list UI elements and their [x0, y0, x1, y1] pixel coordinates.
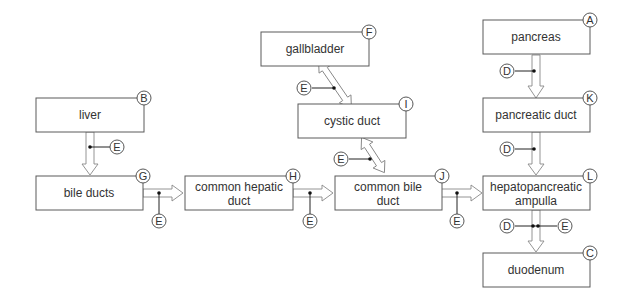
- control-badge-e: E: [152, 214, 166, 228]
- svg-text:duct: duct: [377, 194, 400, 208]
- node-pancreatic-duct: pancreatic duct K: [483, 91, 597, 132]
- svg-text:pancreas: pancreas: [511, 30, 560, 44]
- svg-text:E: E: [561, 220, 568, 232]
- node-badge-c: C: [583, 246, 597, 260]
- flow-diagram: E E E E E E: [0, 0, 632, 288]
- node-duodenum: duodenum C: [483, 246, 597, 287]
- svg-text:J: J: [439, 170, 445, 182]
- svg-text:common bile: common bile: [354, 180, 422, 194]
- svg-text:E: E: [300, 82, 307, 94]
- svg-text:ampulla: ampulla: [515, 194, 557, 208]
- svg-text:D: D: [503, 65, 511, 77]
- control-badge-e: E: [558, 219, 572, 233]
- node-badge-g: G: [136, 169, 150, 183]
- node-badge-i: I: [399, 97, 413, 111]
- node-hepatopancreatic-ampulla: hepatopancreatic ampulla L: [483, 169, 597, 210]
- control-badge-d: D: [500, 219, 514, 233]
- arrow-bile-ducts-to-common-hepatic-duct: [143, 185, 183, 201]
- arrow-pancreatic-duct-to-hepatopancreatic-ampulla: [528, 132, 544, 175]
- node-badge-a: A: [583, 13, 597, 27]
- node-badge-j: J: [435, 169, 449, 183]
- node-gallbladder: gallbladder F: [261, 25, 376, 66]
- arrow-liver-to-bile-ducts: [82, 132, 98, 175]
- arrow-cystic-duct-common-bile-duct: [356, 134, 391, 177]
- node-common-bile-duct: common bile duct J: [335, 169, 449, 210]
- svg-text:E: E: [155, 215, 162, 227]
- svg-text:common hepatic: common hepatic: [195, 180, 283, 194]
- svg-text:A: A: [586, 14, 594, 26]
- svg-text:gallbladder: gallbladder: [286, 42, 345, 56]
- svg-text:F: F: [366, 26, 373, 38]
- node-pancreas: pancreas A: [483, 13, 597, 54]
- svg-text:E: E: [113, 141, 120, 153]
- arrow-common-bile-duct-to-hepatopancreatic-ampulla: [441, 185, 482, 201]
- svg-text:pancreatic duct: pancreatic duct: [495, 108, 577, 122]
- svg-text:H: H: [289, 170, 297, 182]
- node-badge-h: H: [286, 169, 300, 183]
- control-badge-e: E: [297, 81, 311, 95]
- svg-text:bile ducts: bile ducts: [64, 186, 115, 200]
- svg-text:liver: liver: [79, 108, 101, 122]
- svg-text:C: C: [586, 247, 594, 259]
- control-badge-d: D: [500, 64, 514, 78]
- control-badge-e: E: [450, 214, 464, 228]
- svg-text:E: E: [306, 215, 313, 227]
- svg-text:duct: duct: [228, 194, 251, 208]
- svg-text:hepatopancreatic: hepatopancreatic: [490, 180, 582, 194]
- control-badge-d: D: [500, 142, 514, 156]
- control-d-pancreatic-duct-ampulla: D: [500, 142, 536, 156]
- svg-text:L: L: [587, 170, 593, 182]
- node-cystic-duct: cystic duct I: [298, 97, 413, 138]
- svg-text:duodenum: duodenum: [508, 263, 565, 277]
- node-badge-b: B: [137, 91, 151, 105]
- node-bile-ducts: bile ducts G: [36, 169, 150, 210]
- svg-text:G: G: [139, 170, 148, 182]
- arrow-hepatopancreatic-ampulla-to-duodenum: [528, 210, 544, 252]
- svg-text:E: E: [453, 215, 460, 227]
- control-e-cystic-duct-common-bile-duct: E: [334, 152, 372, 166]
- node-liver: liver B: [36, 91, 151, 132]
- node-badge-k: K: [583, 91, 597, 105]
- svg-text:cystic duct: cystic duct: [324, 114, 381, 128]
- svg-text:B: B: [140, 92, 147, 104]
- svg-text:D: D: [503, 143, 511, 155]
- control-d-pancreas-pancreatic-duct: D: [500, 64, 536, 78]
- svg-text:K: K: [586, 92, 594, 104]
- control-e-gallbladder-cystic-duct: E: [297, 81, 336, 95]
- svg-text:E: E: [337, 153, 344, 165]
- control-badge-e: E: [334, 152, 348, 166]
- control-badge-e: E: [303, 214, 317, 228]
- svg-text:I: I: [404, 98, 407, 110]
- control-badge-e: E: [110, 140, 124, 154]
- node-badge-l: L: [583, 169, 597, 183]
- arrow-pancreas-to-pancreatic-duct: [528, 55, 544, 98]
- node-common-hepatic-duct: common hepatic duct H: [185, 169, 300, 210]
- arrow-common-hepatic-duct-to-common-bile-duct: [293, 185, 333, 201]
- node-badge-f: F: [362, 25, 376, 39]
- svg-text:D: D: [503, 220, 511, 232]
